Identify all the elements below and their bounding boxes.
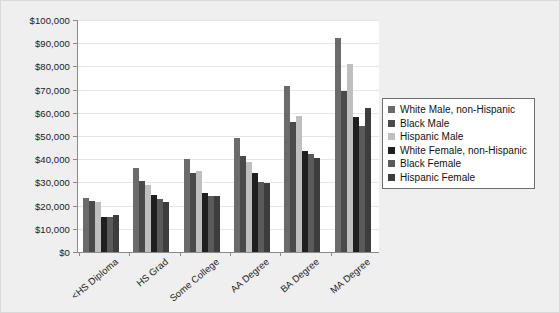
legend-swatch-icon	[388, 106, 395, 113]
bar-group	[234, 20, 270, 252]
legend-item-label: White Female, non-Hispanic	[400, 144, 527, 158]
legend-item-label: White Male, non-Hispanic	[400, 103, 515, 117]
legend-swatch-icon	[388, 147, 395, 154]
bar[interactable]	[314, 158, 320, 252]
bar[interactable]	[113, 215, 119, 252]
bar-series-container	[77, 20, 379, 252]
legend-swatch-icon	[388, 133, 395, 140]
legend-item-label: Black Male	[400, 117, 449, 131]
y-axis-tick-label: $20,000	[35, 200, 77, 211]
y-axis-tick-label: $60,000	[35, 107, 77, 118]
y-axis-tick-label: $100,000	[30, 15, 77, 26]
legend-item[interactable]: Hispanic Female	[388, 171, 527, 185]
y-axis-tick-label: $30,000	[35, 177, 77, 188]
x-axis-tick-mark	[129, 252, 130, 256]
x-axis-tick-mark	[180, 252, 181, 256]
legend-item-label: Black Female	[400, 157, 461, 171]
legend-item[interactable]: White Female, non-Hispanic	[388, 144, 527, 158]
y-axis-tick-label: $50,000	[35, 131, 77, 142]
legend-item-label: Hispanic Female	[400, 171, 475, 185]
legend-item[interactable]: Black Male	[388, 117, 527, 131]
bar-group	[133, 20, 169, 252]
bar[interactable]	[264, 183, 270, 252]
x-axis-tick-mark	[230, 252, 231, 256]
y-axis-tick-label: $40,000	[35, 154, 77, 165]
x-axis-tick-mark	[331, 252, 332, 256]
legend-item[interactable]: Hispanic Male	[388, 130, 527, 144]
legend-swatch-icon	[388, 174, 395, 181]
chart-page: $100,000$90,000$80,000$70,000$60,000$50,…	[0, 0, 560, 313]
legend-swatch-icon	[388, 160, 395, 167]
bar[interactable]	[163, 202, 169, 252]
bar[interactable]	[214, 196, 220, 252]
x-axis-tick-mark	[79, 252, 80, 256]
legend-item-label: Hispanic Male	[400, 130, 463, 144]
legend-item[interactable]: White Male, non-Hispanic	[388, 103, 527, 117]
y-axis-tick-label: $80,000	[35, 61, 77, 72]
bar-group	[284, 20, 320, 252]
y-axis-tick-label: $70,000	[35, 84, 77, 95]
y-axis-tick-label: $90,000	[35, 38, 77, 49]
y-axis-tick-label: $10,000	[35, 223, 77, 234]
gridline	[77, 252, 379, 253]
bar[interactable]	[365, 108, 371, 252]
bar-group	[184, 20, 220, 252]
bar-chart: $100,000$90,000$80,000$70,000$60,000$50,…	[77, 20, 379, 252]
chart-legend: White Male, non-HispanicBlack MaleHispan…	[382, 98, 535, 189]
legend-swatch-icon	[388, 120, 395, 127]
legend-item[interactable]: Black Female	[388, 157, 527, 171]
x-axis-tick-mark	[280, 252, 281, 256]
y-axis-tick-label: $0	[59, 247, 77, 258]
bar-group	[83, 20, 119, 252]
bar-group	[335, 20, 371, 252]
